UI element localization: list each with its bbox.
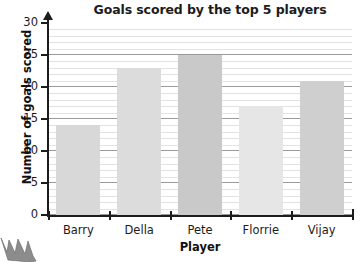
x-tick — [352, 211, 354, 220]
gridline-minor — [48, 29, 352, 30]
x-axis-title: Player — [48, 240, 352, 254]
chart-title: Goals scored by the top 5 players — [60, 2, 360, 17]
gridline-minor — [48, 42, 352, 43]
plot-area — [48, 23, 352, 215]
x-tick — [230, 211, 232, 220]
x-tick — [109, 211, 111, 220]
bar-chart: Goals scored by the top 5 players 051015… — [0, 0, 364, 262]
y-tick — [41, 150, 49, 152]
y-tick — [41, 54, 49, 56]
x-tick — [170, 211, 172, 220]
x-tick — [48, 211, 50, 220]
bar-della — [117, 68, 161, 215]
y-tick — [41, 86, 49, 88]
x-tick-label-vijay: Vijay — [286, 223, 358, 237]
bar-florrie — [239, 106, 283, 215]
x-axis-line — [47, 215, 354, 217]
y-tick — [41, 22, 49, 24]
y-tick-label: 0 — [0, 207, 38, 221]
x-tick — [291, 211, 293, 220]
gridline-minor — [48, 36, 352, 37]
bar-vijay — [300, 81, 344, 215]
bar-pete — [178, 55, 222, 215]
y-tick — [41, 182, 49, 184]
y-axis-line — [47, 18, 49, 216]
gridline-minor — [48, 49, 352, 50]
y-axis-title: Number of goals scored — [20, 22, 34, 192]
y-tick — [41, 118, 49, 120]
bar-barry — [56, 125, 100, 215]
crown-icon — [0, 228, 42, 262]
